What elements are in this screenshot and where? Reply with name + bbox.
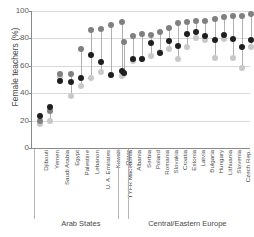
data-point-group (205, 11, 206, 148)
data-point-group (160, 11, 161, 148)
data-point-group (71, 11, 72, 148)
x-tick-label: Bulgaria (208, 150, 215, 173)
x-tick-label: Saudi Arabia (63, 150, 70, 185)
data-point (221, 14, 227, 20)
x-tick-label: Latvia (199, 150, 206, 167)
data-point (130, 56, 136, 62)
data-point-group (142, 11, 143, 148)
data-point (108, 72, 114, 78)
data-point-group (169, 11, 170, 148)
data-point-group (151, 11, 152, 148)
data-point (148, 53, 154, 59)
data-point (157, 50, 163, 56)
data-point (108, 22, 114, 28)
data-point (57, 78, 63, 84)
data-point-group (187, 11, 188, 148)
data-point (47, 118, 53, 124)
data-point (230, 55, 236, 61)
x-tick-label: Poland (154, 150, 161, 169)
x-tick-label: Slovenia (235, 150, 242, 174)
data-point-group (81, 11, 82, 148)
data-point (88, 52, 94, 58)
data-point (130, 33, 136, 39)
x-tick-label: Egypt (73, 150, 80, 166)
data-point (88, 75, 94, 81)
data-point (68, 79, 74, 85)
gridline (32, 121, 250, 122)
data-point (193, 35, 199, 41)
x-tick-label: Hungary (217, 150, 224, 173)
y-tick-label: 80 (0, 33, 29, 42)
data-point (230, 13, 236, 19)
data-point (139, 31, 145, 37)
data-point-group (101, 11, 102, 148)
range-stem (111, 25, 112, 76)
y-tick-label: 100 (0, 6, 29, 15)
y-tick-mark (29, 38, 31, 39)
data-point (221, 32, 227, 38)
data-point (98, 59, 104, 65)
y-tick-label: 60 (0, 61, 29, 70)
data-point (166, 25, 172, 31)
range-stem (178, 23, 179, 59)
data-point (248, 44, 254, 50)
y-tick-mark (29, 93, 31, 94)
data-point-group (196, 11, 197, 148)
data-point (212, 37, 218, 43)
data-point-group (224, 11, 225, 148)
data-point (175, 20, 181, 26)
x-tick-label: Slovakia (172, 150, 179, 173)
data-point (202, 18, 208, 24)
group-label: Arab States (34, 219, 128, 228)
y-tick-mark (29, 66, 31, 67)
gridline (32, 93, 250, 94)
plot-area (32, 11, 250, 148)
gridline (32, 11, 250, 12)
x-tick-label: U. A. Emirates (104, 150, 111, 190)
data-point (98, 69, 104, 75)
data-point (193, 18, 199, 24)
data-point-group (133, 11, 134, 148)
data-point-group (111, 11, 112, 148)
x-tick-label: Rep. Moldova (253, 150, 254, 188)
data-point (175, 43, 181, 49)
x-tick-label: Lithuania (226, 150, 233, 175)
data-point (37, 113, 43, 119)
data-point (166, 46, 172, 52)
data-point (184, 44, 190, 50)
group-separator (34, 149, 35, 219)
data-point (175, 56, 181, 62)
data-point-group (233, 11, 234, 148)
data-point-group (91, 11, 92, 148)
data-point-group (124, 11, 125, 148)
data-point-group (178, 11, 179, 148)
data-point (78, 46, 84, 52)
data-point (148, 32, 154, 38)
x-tick-label: Estonia (190, 150, 197, 171)
data-point (212, 16, 218, 22)
data-point-group (40, 11, 41, 148)
y-tick-mark (29, 11, 31, 12)
data-point (184, 19, 190, 25)
y-tick-mark (29, 121, 31, 122)
data-point (78, 83, 84, 89)
chart-figure: Female teachers (%) 020406080100 Djibout… (0, 0, 254, 237)
data-point (239, 65, 245, 71)
data-point (148, 40, 154, 46)
y-tick-mark (29, 148, 31, 149)
range-stem (242, 16, 243, 68)
data-point (139, 56, 145, 62)
y-tick-label: 20 (0, 116, 29, 125)
x-tick-label: Romania (163, 150, 170, 175)
gridline (32, 66, 250, 67)
group-label: Central/Eastern Europe (118, 219, 254, 228)
x-tick-label: Lebanon (93, 150, 100, 174)
data-point-group (251, 11, 252, 148)
data-point (68, 71, 74, 77)
data-point (193, 29, 199, 35)
data-point (239, 13, 245, 19)
data-point (68, 93, 74, 99)
data-point (212, 55, 218, 61)
data-point (88, 27, 94, 33)
x-tick-label: Palestine (83, 150, 90, 175)
